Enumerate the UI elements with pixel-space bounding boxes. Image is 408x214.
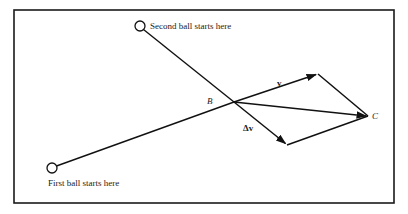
second-ball-start-marker [135, 21, 145, 31]
first-ball-start-marker [47, 163, 57, 173]
diagram-frame [14, 10, 394, 203]
velocity-label: v [277, 78, 282, 88]
delta-velocity-vector [234, 102, 286, 144]
parallelogram-side-bottom [287, 116, 368, 145]
parallelogram-side-top [318, 74, 368, 116]
second-ball-label: Second ball starts here [150, 21, 231, 31]
point-c-label: C [372, 111, 379, 121]
first-ball-label: First ball starts here [48, 178, 119, 188]
point-b-label: B [207, 96, 213, 106]
resultant-vector [234, 102, 366, 116]
first-ball-path [57, 102, 235, 166]
second-ball-path [144, 30, 235, 103]
velocity-vector [234, 75, 316, 103]
delta-velocity-label: Δv [243, 123, 254, 133]
collision-diagram: Second ball starts here First ball start… [0, 0, 408, 214]
